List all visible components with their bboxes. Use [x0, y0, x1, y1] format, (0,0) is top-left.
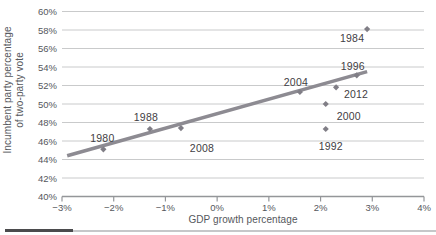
x-tick-label: −2% — [104, 202, 124, 213]
y-tick-label: 58% — [38, 25, 58, 36]
y-tick-label: 54% — [38, 62, 58, 73]
y-tick-label: 48% — [38, 117, 58, 128]
y-tick-label: 46% — [38, 136, 58, 147]
y-tick-label: 44% — [38, 154, 58, 165]
x-tick-label: 1% — [262, 202, 276, 213]
data-point-year-label: 1992 — [319, 140, 343, 152]
y-tick-label: 56% — [38, 43, 58, 54]
data-point-year-label: 2008 — [190, 142, 214, 154]
data-point-year-label: 1984 — [340, 32, 364, 44]
y-tick-label: 50% — [38, 99, 58, 110]
y-tick-label: 60% — [38, 6, 58, 17]
x-tick-label: 0% — [210, 202, 224, 213]
caption-rule-dark — [5, 229, 73, 232]
caption-rule-light — [73, 230, 436, 232]
x-tick-label: −1% — [156, 202, 176, 213]
y-tick-label: 42% — [38, 173, 58, 184]
data-point-year-label: 1980 — [90, 132, 114, 144]
x-tick-label: 2% — [314, 202, 328, 213]
x-axis-title: GDP growth percentage — [188, 214, 297, 225]
y-axis-title: Incumbent party percentage of two-party … — [2, 0, 26, 190]
x-tick-label: 4% — [417, 202, 431, 213]
scatter-chart-figure: −3%−2%−1%0%1%2%3%4%40%42%44%46%48%50%52%… — [0, 0, 436, 235]
data-point-marker — [323, 101, 329, 107]
y-tick-label: 40% — [38, 191, 58, 202]
data-point-year-label: 2000 — [337, 110, 361, 122]
y-axis-title-line2: of two-party vote — [14, 0, 26, 190]
data-point-marker — [364, 26, 370, 32]
data-point-year-label: 1996 — [341, 60, 365, 72]
data-point-year-label: 1988 — [134, 111, 158, 123]
x-tick-label: 3% — [365, 202, 379, 213]
data-point-marker — [323, 126, 329, 132]
y-axis-title-line1: Incumbent party percentage — [2, 0, 14, 190]
data-point-year-label: 2012 — [344, 88, 368, 100]
data-point-year-label: 2004 — [284, 76, 308, 88]
plot-area: −3%−2%−1%0%1%2%3%4%40%42%44%46%48%50%52%… — [0, 0, 436, 235]
x-tick-label: −3% — [52, 202, 72, 213]
y-tick-label: 52% — [38, 80, 58, 91]
